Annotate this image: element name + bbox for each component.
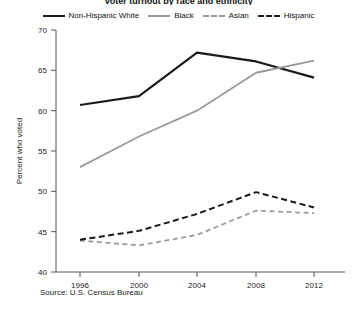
series-line-asian [80,211,314,246]
y-axis-tick-label: 50 [38,187,47,196]
chart-container: Voter turnout by race and ethnicity Non-… [0,0,357,314]
series-line-black [80,61,314,167]
y-axis-tick-label: 45 [38,228,47,237]
y-axis-tick-label: 60 [38,107,47,116]
y-axis-tick-label: 70 [38,26,47,35]
x-axis-tick-label: 2008 [247,281,265,290]
source-note: Source: U.S. Census Bureau [40,288,143,297]
chart-series [80,53,314,246]
chart-plot-area: 4045505560657019962000200420082012Percen… [0,0,357,314]
y-axis-title: Percent who voted [15,118,24,184]
y-axis-tick-label: 55 [38,147,47,156]
x-axis-tick-label: 2004 [188,281,206,290]
y-axis-tick-label: 65 [38,66,47,75]
x-axis-tick-label: 2012 [305,281,323,290]
y-axis-tick-label: 40 [38,268,47,277]
series-line-hispanic [80,192,314,240]
series-line-non-hispanic-white [80,53,314,105]
